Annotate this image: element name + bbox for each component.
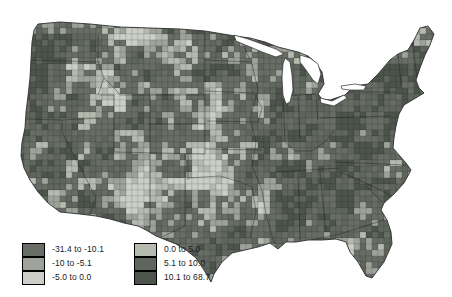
legend-label: -31.4 to -10.1	[52, 243, 104, 256]
legend-column-positive: 0.0 to 5.0 5.1 to 10.0 10.1 to 68.7	[134, 243, 210, 284]
legend-row: 0.0 to 5.0	[134, 243, 210, 256]
legend-row: -5.0 to 0.0	[22, 271, 104, 284]
legend-label: -10 to -5.1	[52, 257, 92, 270]
legend-swatch	[22, 271, 45, 285]
legend-label: 10.1 to 68.7	[164, 271, 210, 284]
legend-swatch	[134, 271, 157, 285]
legend-column-negative: -31.4 to -10.1 -10 to -5.1 -5.0 to 0.0	[22, 243, 104, 284]
legend-row: -31.4 to -10.1	[22, 243, 104, 256]
map-legend: -31.4 to -10.1 -10 to -5.1 -5.0 to 0.0 0…	[22, 243, 210, 284]
legend-swatch	[134, 257, 157, 271]
legend-swatch	[134, 243, 157, 257]
legend-swatch	[22, 243, 45, 257]
legend-label: 0.0 to 5.0	[164, 243, 200, 256]
legend-row: 5.1 to 10.0	[134, 257, 210, 270]
legend-label: -5.0 to 0.0	[52, 271, 91, 284]
legend-label: 5.1 to 10.0	[164, 257, 205, 270]
legend-row: -10 to -5.1	[22, 257, 104, 270]
figure-us-county-choropleth: -31.4 to -10.1 -10 to -5.1 -5.0 to 0.0 0…	[0, 0, 452, 297]
legend-row: 10.1 to 68.7	[134, 271, 210, 284]
legend-swatch	[22, 257, 45, 271]
